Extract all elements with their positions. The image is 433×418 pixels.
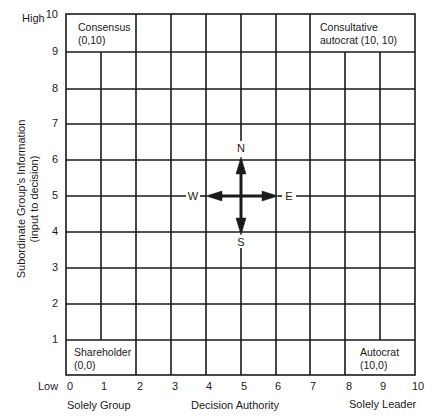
x-tick: 8	[339, 380, 359, 392]
y-axis-high-label: High	[22, 12, 45, 24]
corner-shareholder: Shareholder (0,0)	[74, 346, 131, 372]
y-tick: 1	[44, 333, 58, 345]
corner-consultative-autocrat: Consultative autocrat (10, 10)	[320, 21, 397, 47]
x-axis-title: Decision Authority	[191, 399, 279, 411]
x-tick: 5	[234, 380, 254, 392]
x-tick: 9	[373, 380, 393, 392]
compass-south-label: S	[235, 236, 247, 248]
corner-label-line: (10,0)	[360, 359, 399, 372]
y-tick: 7	[44, 117, 58, 129]
x-tick: 7	[303, 380, 323, 392]
corner-label-line: Consultative	[320, 21, 397, 34]
compass-north-label: N	[235, 142, 247, 154]
x-tick: 2	[130, 380, 150, 392]
corner-autocrat: Autocrat (10,0)	[360, 346, 399, 372]
corner-label-line: autocrat (10, 10)	[320, 34, 397, 47]
x-tick: 3	[165, 380, 185, 392]
compass-arrows-icon	[206, 157, 278, 235]
y-tick: 6	[44, 153, 58, 165]
compass-east-label: E	[283, 190, 295, 202]
y-axis-title-line2: (input to decision)	[28, 109, 41, 289]
x-tick: 4	[199, 380, 219, 392]
x-tick: 10	[408, 380, 428, 392]
corner-label-line: Shareholder	[74, 346, 131, 359]
corner-label-line: Consensus	[78, 21, 131, 34]
x-tick: 6	[268, 380, 288, 392]
corner-label-line: (0,0)	[74, 359, 131, 372]
corner-label-line: Autocrat	[360, 346, 399, 359]
corner-consensus: Consensus (0,10)	[78, 21, 131, 47]
y-tick: 4	[44, 225, 58, 237]
x-tick: 1	[94, 380, 114, 392]
x-axis-right-label: Solely Leader	[349, 398, 416, 410]
y-axis-low-label: Low	[38, 380, 58, 392]
x-axis-left-label: Solely Group	[67, 399, 131, 411]
y-axis-title: Subordinate Group's Information (input t…	[15, 109, 41, 289]
compass-west-label: W	[187, 190, 199, 202]
y-tick: 5	[44, 189, 58, 201]
y-tick: 2	[44, 297, 58, 309]
y-tick: 10	[44, 8, 58, 20]
y-tick: 9	[44, 45, 58, 57]
y-axis-title-line1: Subordinate Group's Information	[15, 109, 28, 289]
x-tick: 0	[60, 380, 80, 392]
corner-label-line: (0,10)	[78, 34, 131, 47]
y-tick: 8	[44, 82, 58, 94]
y-tick: 3	[44, 261, 58, 273]
